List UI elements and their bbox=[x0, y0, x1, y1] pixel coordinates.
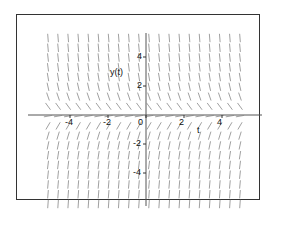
slope-segment bbox=[169, 180, 170, 188]
slope-segment bbox=[227, 103, 232, 110]
slope-segment bbox=[128, 161, 129, 169]
slope-segment bbox=[179, 190, 180, 198]
slope-segment bbox=[97, 132, 99, 140]
slope-segment bbox=[128, 132, 130, 140]
slope-segment bbox=[88, 63, 89, 71]
slope-segment bbox=[168, 83, 170, 91]
slope-segment bbox=[128, 180, 129, 188]
slope-segment bbox=[47, 151, 48, 159]
slope-segment bbox=[149, 53, 150, 61]
slope-segment bbox=[165, 115, 173, 116]
slope-segment bbox=[58, 161, 59, 169]
slope-segment bbox=[239, 83, 241, 91]
y-axis-label: y(t) bbox=[110, 68, 123, 77]
slope-segment bbox=[86, 103, 91, 110]
slope-segment bbox=[128, 53, 129, 61]
slope-segment bbox=[118, 83, 120, 91]
slope-segment bbox=[118, 141, 120, 149]
slope-segment bbox=[149, 44, 150, 52]
slope-segment bbox=[207, 103, 212, 110]
slope-segment bbox=[88, 180, 89, 188]
slope-segment bbox=[147, 103, 152, 110]
slope-segment bbox=[57, 151, 58, 159]
slope-segment bbox=[138, 63, 139, 71]
slope-segment bbox=[44, 115, 52, 116]
slope-segment bbox=[219, 44, 220, 52]
slope-segment bbox=[56, 122, 60, 129]
slope-segment bbox=[159, 200, 160, 208]
slope-segment bbox=[169, 171, 170, 179]
slope-segment bbox=[157, 103, 162, 110]
slope-segment bbox=[219, 141, 221, 149]
slope-segment bbox=[128, 141, 130, 149]
slope-segment bbox=[206, 115, 214, 116]
slope-segment bbox=[88, 151, 89, 159]
slope-segment bbox=[188, 132, 190, 140]
slope-segment bbox=[129, 34, 130, 42]
slope-segment bbox=[199, 34, 200, 42]
slope-segment bbox=[240, 190, 241, 198]
slope-segment bbox=[159, 151, 160, 159]
slope-segment bbox=[48, 44, 49, 52]
slope-segment bbox=[199, 53, 200, 61]
slope-segment bbox=[128, 151, 129, 159]
slope-segment bbox=[98, 44, 99, 52]
slope-segment bbox=[128, 73, 129, 81]
slope-segment bbox=[87, 132, 89, 140]
slope-segment bbox=[68, 63, 69, 71]
slope-segment bbox=[219, 190, 220, 198]
slope-segment bbox=[47, 63, 48, 71]
slope-segment bbox=[48, 200, 49, 208]
slope-segment bbox=[138, 151, 139, 159]
x-tick-label: 0 bbox=[138, 118, 143, 127]
slope-segment bbox=[219, 200, 220, 208]
slope-segment bbox=[229, 171, 230, 179]
x-tick-label: -4 bbox=[65, 118, 73, 127]
slope-segment bbox=[240, 180, 241, 188]
slope-segment bbox=[46, 122, 50, 129]
slope-segment bbox=[98, 180, 99, 188]
slope-segment bbox=[118, 190, 119, 198]
slope-segment bbox=[208, 122, 212, 129]
slope-segment bbox=[187, 122, 191, 129]
slope-segment bbox=[107, 93, 110, 101]
slope-segment bbox=[239, 161, 240, 169]
slope-segment bbox=[108, 34, 109, 42]
slope-segment bbox=[179, 44, 180, 52]
slope-segment bbox=[239, 132, 241, 140]
slope-segment bbox=[209, 171, 210, 179]
slope-segment bbox=[199, 63, 200, 71]
slope-segment bbox=[178, 93, 181, 101]
slope-segment bbox=[199, 161, 200, 169]
slope-segment bbox=[139, 190, 140, 198]
slope-segment bbox=[169, 44, 170, 52]
slope-segment bbox=[77, 141, 79, 149]
slope-segment bbox=[77, 83, 79, 91]
slope-segment bbox=[158, 141, 160, 149]
slope-segment bbox=[177, 103, 182, 110]
slope-segment bbox=[199, 141, 201, 149]
slope-segment bbox=[88, 44, 89, 52]
slope-segment bbox=[129, 190, 130, 198]
slope-segment bbox=[168, 141, 170, 149]
slope-segment bbox=[179, 73, 180, 81]
slope-segment bbox=[147, 122, 151, 129]
slope-segment bbox=[195, 115, 203, 116]
slope-segment bbox=[98, 63, 99, 71]
slope-segment bbox=[88, 171, 89, 179]
slope-segment bbox=[159, 190, 160, 198]
slope-segment bbox=[209, 190, 210, 198]
slope-segment bbox=[209, 73, 210, 81]
slope-segment bbox=[148, 141, 150, 149]
slope-segment bbox=[58, 171, 59, 179]
slope-segment bbox=[189, 34, 190, 42]
slope-segment bbox=[127, 93, 130, 101]
slope-segment bbox=[149, 34, 150, 42]
slope-segment bbox=[108, 141, 110, 149]
slope-segment bbox=[238, 103, 243, 110]
slope-segment bbox=[128, 44, 129, 52]
slope-segment bbox=[77, 93, 80, 101]
slope-segment bbox=[58, 63, 59, 71]
slope-segment bbox=[67, 132, 69, 140]
slope-segment bbox=[108, 171, 109, 179]
